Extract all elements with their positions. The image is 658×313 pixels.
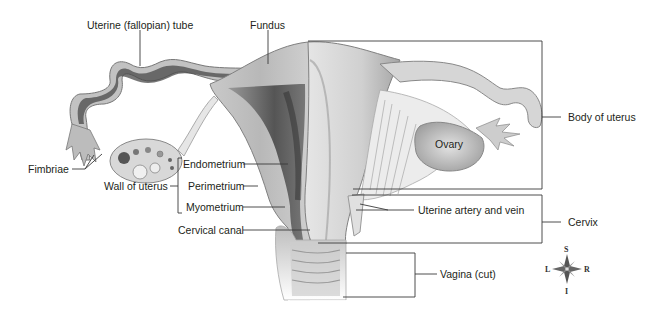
compass-right: R <box>584 265 590 274</box>
compass-inferior: I <box>565 287 568 296</box>
compass-left: L <box>545 265 550 274</box>
label-perimetrium: Perimetrium <box>188 180 245 192</box>
label-ovary: Ovary <box>435 138 463 150</box>
label-uterine-tube: Uterine (fallopian) tube <box>87 19 193 31</box>
label-cervix: Cervix <box>568 216 598 228</box>
uterine-vessels <box>348 194 364 236</box>
label-wall-of-uterus: Wall of uterus <box>104 180 168 192</box>
compass-superior: S <box>564 245 568 254</box>
label-body-of-uterus: Body of uterus <box>568 111 636 123</box>
left-ovary <box>110 139 182 183</box>
left-ovarian-ligament <box>178 96 218 156</box>
label-uterine-artery-vein: Uterine artery and vein <box>418 204 524 216</box>
label-fimbriae: Fimbriae <box>28 163 69 175</box>
label-fundus: Fundus <box>250 19 285 31</box>
label-cervical-canal: Cervical canal <box>178 224 244 236</box>
label-vagina: Vagina (cut) <box>440 268 496 280</box>
label-myometrium: Myometrium <box>186 201 244 213</box>
label-endometrium: Endometrium <box>183 158 245 170</box>
compass-rose-icon <box>552 254 582 284</box>
uterus-illustration <box>0 0 658 313</box>
